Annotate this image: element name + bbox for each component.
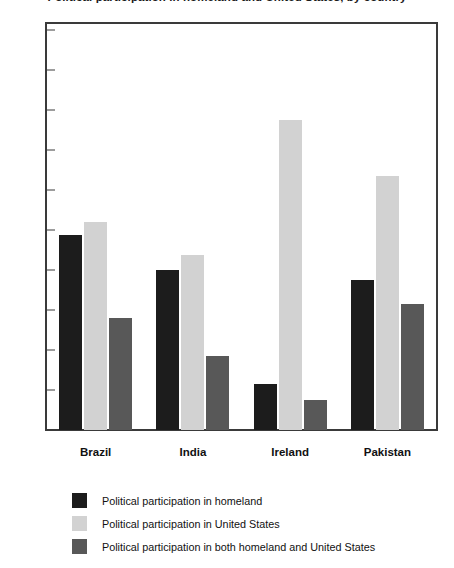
legend-swatch-icon: [72, 539, 87, 554]
bar-india-series-2: [206, 356, 229, 430]
bar-brazil-series-1: [84, 222, 107, 430]
x-axis-label-ireland: Ireland: [271, 446, 309, 458]
bar-india-series-0: [156, 270, 179, 430]
bar-pakistan-series-2: [401, 304, 424, 430]
chart-legend: Political participation in homelandPolit…: [72, 489, 442, 558]
legend-item: Political participation in both homeland…: [72, 535, 442, 558]
bar-pakistan-series-1: [376, 176, 399, 430]
legend-item: Political participation in homeland: [72, 489, 442, 512]
bar-india-series-1: [181, 255, 204, 430]
bar-brazil-series-2: [109, 318, 132, 430]
y-axis: 0%5%10%15%20%25%30%35%40%50%60%: [0, 0, 45, 568]
legend-swatch-icon: [72, 516, 87, 531]
bar-ireland-series-1: [279, 120, 302, 430]
bars-layer: [47, 24, 436, 430]
legend-label: Political participation in United States: [102, 518, 280, 530]
bar-pakistan-series-0: [351, 280, 374, 430]
bar-ireland-series-2: [304, 400, 327, 430]
x-axis-label-pakistan: Pakistan: [364, 446, 411, 458]
chart-title: Political participation in homeland and …: [0, 0, 454, 4]
legend-item: Political participation in United States: [72, 512, 442, 535]
legend-label: Political participation in homeland: [102, 495, 262, 507]
legend-swatch-icon: [72, 493, 87, 508]
bar-brazil-series-0: [59, 235, 82, 430]
legend-label: Political participation in both homeland…: [102, 541, 375, 553]
bar-ireland-series-0: [254, 384, 277, 430]
x-axis-label-india: India: [179, 446, 206, 458]
x-axis-label-brazil: Brazil: [80, 446, 111, 458]
bar-chart: Political participation in homeland and …: [0, 0, 454, 568]
